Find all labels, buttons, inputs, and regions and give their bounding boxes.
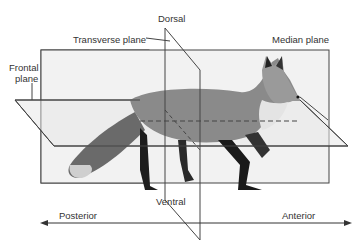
label-transverse-plane: Transverse plane bbox=[73, 34, 146, 45]
label-frontal-plane-1: Frontal bbox=[9, 62, 39, 73]
arrow-right-icon bbox=[344, 220, 352, 226]
transverse-leader bbox=[146, 38, 170, 41]
label-ventral: Ventral bbox=[156, 196, 186, 207]
label-frontal-plane-2: plane bbox=[15, 73, 38, 84]
label-dorsal: Dorsal bbox=[158, 13, 185, 24]
arrow-left-icon bbox=[40, 220, 48, 226]
label-median-plane: Median plane bbox=[272, 34, 329, 45]
label-posterior: Posterior bbox=[59, 210, 97, 221]
label-anterior: Anterior bbox=[282, 210, 315, 221]
